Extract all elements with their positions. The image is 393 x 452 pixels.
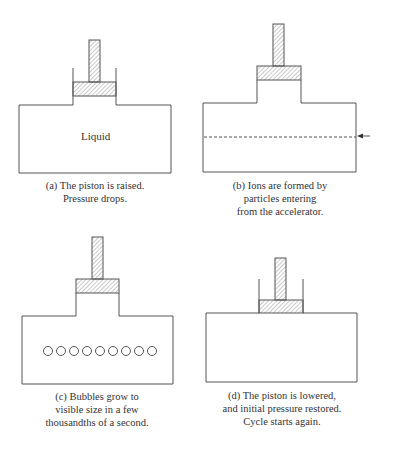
bubble-chamber-diagram [0,0,393,452]
panel-b-chamber [203,24,370,172]
panel-d-piston-head [259,300,303,313]
panel-a-piston-rod [89,40,100,82]
caption-c-line-1: (c) Bubbles grow to [2,390,192,403]
panel-a-piston-head [73,82,116,96]
caption-b: (b) Ions are formed by particles enterin… [185,179,375,218]
panel-c-piston-head [76,279,119,293]
panel-d-chamber [206,258,357,382]
liquid-label: Liquid [81,130,110,142]
panel-a-chamber [19,40,171,173]
caption-d-line-3: Cycle starts again. [187,415,377,428]
panel-b-piston-rod [273,24,284,66]
panel-c-bubbles [44,347,157,356]
panel-d-piston-rod [275,258,286,300]
caption-c: (c) Bubbles grow to visible size in a fe… [2,390,192,429]
caption-d: (d) The piston is lowered, and initial p… [187,389,377,428]
caption-a: (a) The piston is raised. Pressure drops… [0,179,190,205]
panel-b-piston-head [257,66,301,80]
caption-b-line-2: particles entering [185,192,375,205]
caption-c-line-3: thousandths of a second. [2,416,192,429]
caption-b-line-3: from the accelerator. [185,205,375,218]
arrow-left-icon [357,134,363,139]
caption-b-line-1: (b) Ions are formed by [185,179,375,192]
panel-c-chamber [22,237,173,384]
caption-a-line-2: Pressure drops. [0,192,190,205]
panel-c-piston-rod [92,237,103,279]
caption-d-line-1: (d) The piston is lowered, [187,389,377,402]
caption-c-line-2: visible size in a few [2,403,192,416]
caption-d-line-2: and initial pressure restored. [187,402,377,415]
caption-a-line-1: (a) The piston is raised. [0,179,190,192]
